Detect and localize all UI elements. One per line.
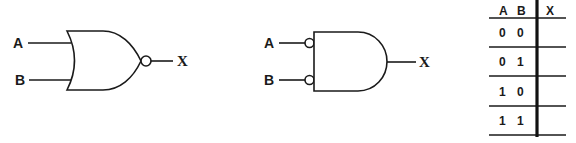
truth-table-row: 0 1 <box>489 55 566 76</box>
row-3-b: 0 <box>517 85 524 99</box>
and-input-b-label: B <box>264 72 274 88</box>
row-4-b: 1 <box>517 114 524 128</box>
nor-output-bubble <box>141 56 151 66</box>
truth-table-header-x: X <box>546 4 554 18</box>
row-2-a: 0 <box>499 55 506 69</box>
row-4-a: 1 <box>499 114 506 128</box>
truth-table-row: 1 1 <box>489 114 566 135</box>
and-input-a-bubble <box>305 39 314 48</box>
and-gate-body <box>314 32 387 91</box>
and-inverted-gate-group: A B X <box>264 32 430 91</box>
truth-table-row: 1 0 <box>489 85 566 106</box>
and-input-a-label: A <box>264 35 274 51</box>
nor-output-label: X <box>177 53 188 69</box>
nor-gate-group: A B X <box>13 31 188 90</box>
nor-input-b-label: B <box>15 72 25 88</box>
and-input-b-bubble <box>305 76 314 85</box>
truth-table-row: 0 0 <box>489 26 566 47</box>
row-2-b: 1 <box>517 55 524 69</box>
truth-table-header-b: B <box>517 4 526 18</box>
nor-gate-body <box>67 31 141 90</box>
logic-diagram: A B X A B X A B X 0 0 0 1 <box>0 0 576 143</box>
truth-table: A B X 0 0 0 1 1 0 1 1 <box>489 0 566 137</box>
row-3-a: 1 <box>499 85 506 99</box>
nor-input-a-label: A <box>13 35 23 51</box>
row-1-a: 0 <box>499 26 506 40</box>
truth-table-header-a: A <box>499 4 508 18</box>
row-1-b: 0 <box>517 26 524 40</box>
and-output-label: X <box>419 54 430 70</box>
